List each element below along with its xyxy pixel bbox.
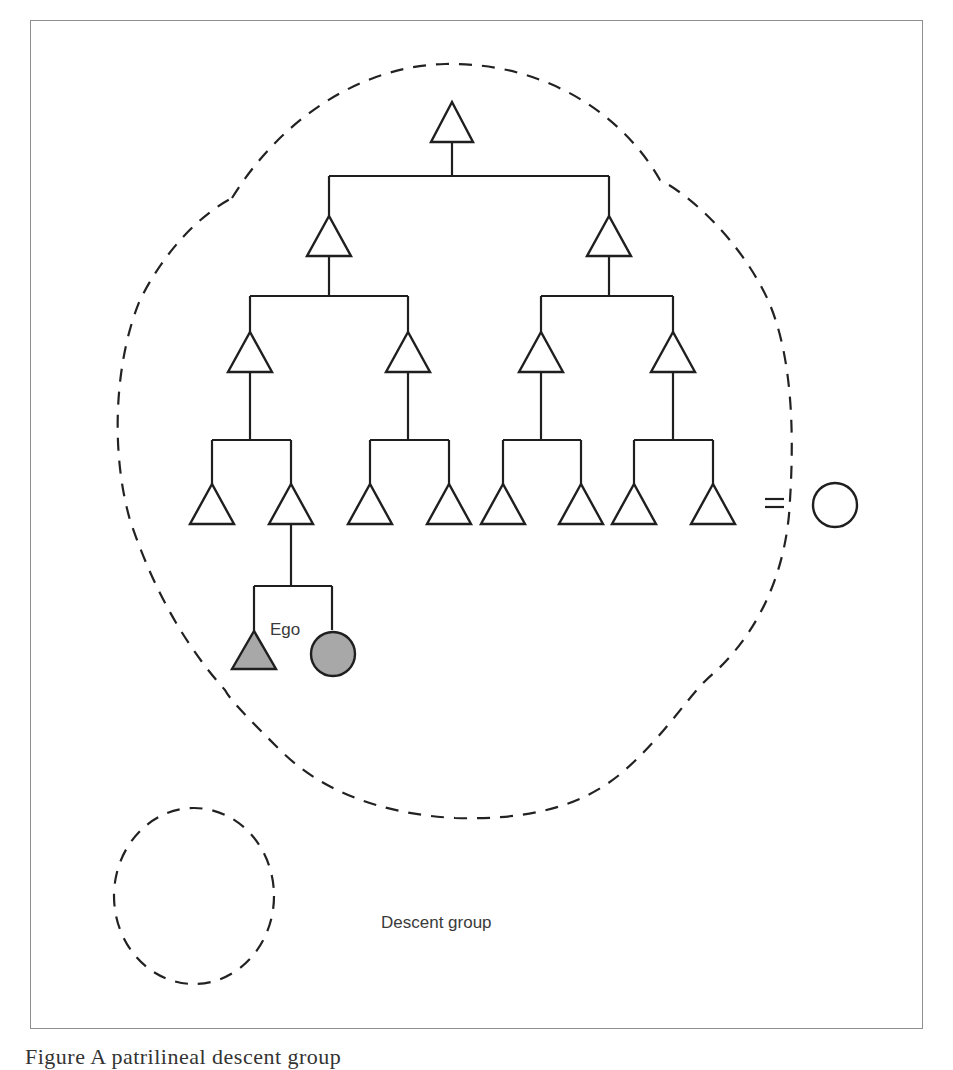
male-icon <box>519 332 563 372</box>
male-symbols <box>190 102 735 524</box>
male-icon <box>307 216 351 256</box>
male-icon <box>190 484 234 524</box>
male-icon <box>559 484 603 524</box>
male-icon <box>651 332 695 372</box>
male-icon <box>587 216 631 256</box>
sister-female-filled-icon <box>311 632 355 676</box>
figure-caption: Figure A patrilineal descent group <box>25 1044 341 1070</box>
male-icon <box>386 332 430 372</box>
descent-lines <box>212 142 713 631</box>
legend-boundary <box>114 808 274 984</box>
male-icon <box>612 484 656 524</box>
marriage-symbol <box>765 499 784 507</box>
male-icon <box>691 484 735 524</box>
legend-label: Descent group <box>381 913 492 933</box>
ego-label: Ego <box>270 620 300 640</box>
male-icon <box>228 332 272 372</box>
male-icon <box>427 484 471 524</box>
male-icon <box>348 484 392 524</box>
male-icon <box>481 484 525 524</box>
female-spouse-icon <box>813 483 857 527</box>
male-icon <box>269 484 313 524</box>
male-icon <box>431 102 473 142</box>
